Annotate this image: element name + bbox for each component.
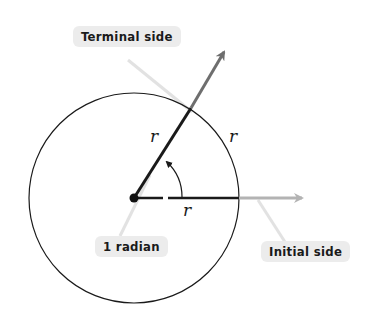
angle-arc-arrow <box>167 162 182 197</box>
initial-side-label: Initial side <box>261 241 350 262</box>
radius-label-initial: r <box>183 200 191 220</box>
radian-diagram <box>0 0 371 320</box>
radius-label-arc: r <box>229 126 237 146</box>
terminal-side-label: Terminal side <box>73 26 181 47</box>
radius-label-terminal: r <box>150 126 158 146</box>
terminal-side-inner <box>134 108 191 198</box>
initial-side-leader <box>258 200 285 242</box>
radian-leader <box>120 175 150 236</box>
terminal-side-arrow <box>191 52 224 108</box>
vertex-dot <box>130 194 139 203</box>
radian-label: 1 radian <box>95 236 168 257</box>
